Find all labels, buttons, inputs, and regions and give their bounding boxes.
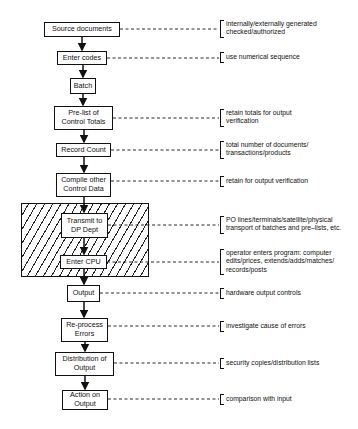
step-label: Transmit to DP Dept bbox=[64, 217, 105, 234]
note-compile-other: retain for output verification bbox=[226, 177, 356, 185]
step-label: Distribution of Output bbox=[58, 355, 111, 372]
step-transmit-to-dp-dept: Transmit to DP Dept bbox=[61, 213, 108, 238]
note-bracket bbox=[220, 109, 224, 127]
step-label: Re-process Errors bbox=[64, 321, 105, 338]
step-enter-codes: Enter codes bbox=[57, 51, 107, 65]
step-label: Pre-list of Control Totals bbox=[57, 109, 110, 126]
note-bracket bbox=[220, 249, 224, 275]
step-source-documents: Source documents bbox=[44, 22, 120, 37]
step-pre-list-control-totals: Pre-list of Control Totals bbox=[54, 106, 113, 130]
step-reprocess-errors: Re-process Errors bbox=[61, 318, 108, 342]
note-reprocess: investigate cause of errors bbox=[226, 322, 356, 330]
step-label: Output bbox=[73, 289, 95, 298]
step-label: Enter codes bbox=[63, 54, 101, 63]
step-enter-cpu: Enter CPU bbox=[60, 255, 107, 269]
step-action-on-output: Action on Output bbox=[62, 390, 108, 410]
note-enter-cpu: operator enters program: computer edits/… bbox=[226, 249, 341, 274]
note-bracket bbox=[220, 141, 224, 159]
step-record-count: Record Count bbox=[56, 143, 111, 157]
note-enter-codes: use numerical sequence bbox=[226, 53, 356, 61]
note-action: comparison with input bbox=[226, 395, 356, 403]
note-bracket bbox=[220, 394, 224, 405]
step-output: Output bbox=[67, 285, 100, 302]
step-batch: Batch bbox=[70, 78, 96, 94]
step-label: Action on Output bbox=[65, 391, 105, 408]
note-bracket bbox=[220, 358, 224, 369]
step-label: Enter CPU bbox=[66, 258, 100, 267]
step-label: Batch bbox=[74, 82, 92, 91]
step-distribution-of-output: Distribution of Output bbox=[55, 352, 114, 376]
step-label: Record Count bbox=[61, 146, 105, 155]
step-label: Source documents bbox=[52, 25, 112, 34]
note-source-documents: internally/externally generated checked/… bbox=[226, 20, 338, 37]
note-bracket bbox=[220, 321, 224, 332]
note-bracket bbox=[220, 288, 224, 299]
note-pre-list: retain totals for output verification bbox=[226, 109, 306, 126]
step-compile-other-control-data: Compile other Control Data bbox=[56, 173, 111, 197]
note-bracket bbox=[220, 176, 224, 187]
note-output: hardware output controls bbox=[226, 289, 356, 297]
note-bracket bbox=[220, 52, 224, 63]
note-record-count: total number of documents/ transactions/… bbox=[226, 141, 316, 158]
note-distribution: security copies/distribution lists bbox=[226, 359, 356, 367]
note-transmit: PO lines/terminals/satellite/physical tr… bbox=[226, 216, 351, 233]
control-flowchart: Source documents Enter codes Batch Pre-l… bbox=[0, 0, 358, 429]
note-bracket bbox=[220, 216, 224, 234]
note-bracket bbox=[220, 20, 224, 38]
step-label: Compile other Control Data bbox=[59, 176, 108, 193]
